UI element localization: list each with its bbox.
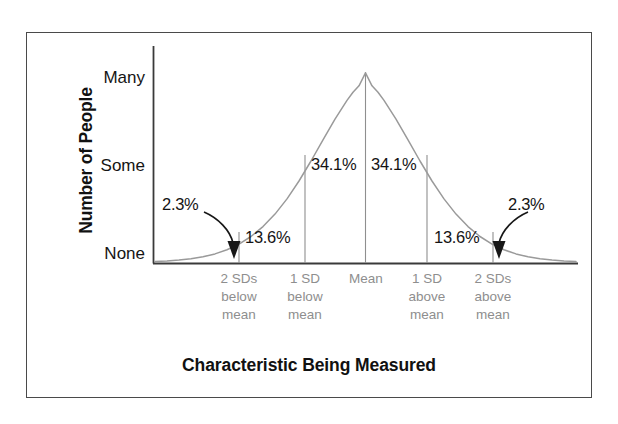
x-axis-title: Characteristic Being Measured	[26, 355, 592, 376]
x-tick-minus-2sd-line1: 2 SDs	[202, 270, 276, 288]
x-tick-plus-2sd-line1: 2 SDs	[456, 270, 530, 288]
y-tick-none: None	[45, 244, 145, 264]
x-tick-minus-1sd-line2: below	[268, 288, 342, 306]
x-tick-plus-1sd-line2: above	[390, 288, 464, 306]
pct-label-right-tail: 2.3%	[508, 195, 544, 214]
x-tick-plus-1sd-line3: mean	[390, 306, 464, 324]
pct-label-left-band: 13.6%	[245, 228, 290, 247]
y-tick-some: Some	[45, 156, 145, 176]
x-tick-plus-2sd-line2: above	[456, 288, 530, 306]
x-tick-plus-2sd-line3: mean	[456, 306, 530, 324]
x-tick-minus-2sd: 2 SDs below mean	[202, 270, 276, 324]
pct-label-right-core: 34.1%	[371, 155, 416, 174]
pct-label-right-band: 13.6%	[434, 228, 479, 247]
x-tick-plus-1sd: 1 SD above mean	[390, 270, 464, 324]
x-tick-minus-1sd-line3: mean	[268, 306, 342, 324]
pct-label-left-core: 34.1%	[311, 155, 356, 174]
x-tick-minus-2sd-line2: below	[202, 288, 276, 306]
pct-label-left-tail: 2.3%	[162, 195, 198, 214]
y-tick-many: Many	[45, 68, 145, 88]
x-tick-plus-1sd-line1: 1 SD	[390, 270, 464, 288]
normal-distribution-figure: Number of People Many Some None 2 SDs be…	[0, 0, 618, 424]
x-tick-plus-2sd: 2 SDs above mean	[456, 270, 530, 324]
x-tick-minus-2sd-line3: mean	[202, 306, 276, 324]
